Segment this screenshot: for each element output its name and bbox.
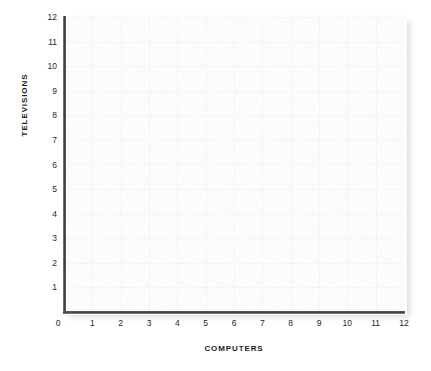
plot-area [64, 17, 404, 312]
y-axis-line [63, 16, 66, 314]
y-axis-tick-label: 4 [37, 209, 57, 219]
x-axis-line [63, 311, 405, 314]
x-axis-tick-label: 12 [394, 318, 414, 328]
y-axis-tick-label: 3 [37, 233, 57, 243]
y-axis-tick-label: 6 [37, 160, 57, 170]
y-axis-tick-label: 2 [37, 258, 57, 268]
y-axis-tick-label: 5 [37, 184, 57, 194]
x-axis-tick-label: 11 [366, 318, 386, 328]
scatter-plot-chart: TELEVISIONS 123456789101112 0 1234567891… [0, 0, 431, 371]
y-axis-tick-label: 9 [37, 86, 57, 96]
x-axis-tick-label: 9 [309, 318, 329, 328]
data-points-layer [64, 17, 404, 312]
y-axis-tick-label: 12 [37, 12, 57, 22]
x-axis-tick-label: 3 [139, 318, 159, 328]
y-axis-tick-label: 1 [37, 282, 57, 292]
x-axis-tick-label: 10 [337, 318, 357, 328]
x-axis-tick-label: 7 [252, 318, 272, 328]
origin-tick-label: 0 [48, 318, 68, 328]
x-axis-title: COMPUTERS [64, 344, 404, 353]
x-axis-tick-label: 1 [82, 318, 102, 328]
x-axis-tick-label: 5 [196, 318, 216, 328]
y-axis-title: TELEVISIONS [18, 60, 32, 150]
x-axis-tick-label: 8 [281, 318, 301, 328]
y-axis-tick-label: 8 [37, 110, 57, 120]
plot-frame [64, 17, 404, 312]
x-axis-tick-label: 2 [111, 318, 131, 328]
x-axis-tick-label: 4 [167, 318, 187, 328]
y-axis-tick-label: 10 [37, 61, 57, 71]
y-axis-tick-label: 11 [37, 37, 57, 47]
x-axis-tick-label: 6 [224, 318, 244, 328]
y-axis-tick-label: 7 [37, 135, 57, 145]
